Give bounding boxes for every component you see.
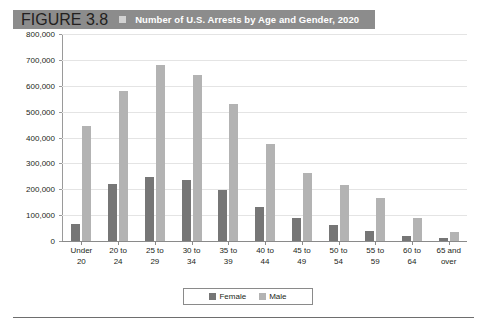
x-axis-category-label: 50 to 54 <box>320 246 357 267</box>
bar-group <box>210 34 247 241</box>
bar-male[interactable] <box>340 185 349 241</box>
bar-male[interactable] <box>119 91 128 241</box>
bar-female[interactable] <box>108 184 117 241</box>
bar-male[interactable] <box>229 104 238 241</box>
y-tick-mark <box>59 86 62 87</box>
bar-group <box>247 34 284 241</box>
bar-male[interactable] <box>156 65 165 241</box>
x-tick-mark <box>81 241 82 245</box>
y-axis-tick-labels: 800,000700,000600,000500,000400,000300,0… <box>8 34 55 249</box>
plot-area <box>62 34 467 242</box>
y-axis-tick-label: 700,000 <box>26 55 55 64</box>
bar-female[interactable] <box>71 224 80 241</box>
bar-male[interactable] <box>413 218 422 241</box>
x-axis-category-label: 55 to 59 <box>357 246 394 267</box>
x-tick-mark <box>118 241 119 245</box>
x-axis-category-labels: Under 2020 to 2425 to 2930 to 3435 to 39… <box>63 246 467 267</box>
y-tick-mark <box>59 241 62 242</box>
bar-male[interactable] <box>266 144 275 241</box>
bar-group <box>430 34 467 241</box>
bar-male[interactable] <box>303 173 312 241</box>
x-axis-category-label: Under 20 <box>63 246 100 267</box>
bar-group <box>100 34 137 241</box>
bar-male[interactable] <box>376 198 385 241</box>
x-axis-category-label: 60 to 64 <box>394 246 431 267</box>
bar-female[interactable] <box>218 190 227 241</box>
figure-header-bar: FIGURE 3.8 Number of U.S. Arrests by Age… <box>13 10 375 29</box>
x-axis-category-label: 40 to 44 <box>247 246 284 267</box>
legend-item-male[interactable]: Male <box>259 292 286 301</box>
bar-group <box>357 34 394 241</box>
x-tick-mark <box>339 241 340 245</box>
y-tick-mark <box>59 112 62 113</box>
x-tick-mark <box>449 241 450 245</box>
legend-label: Female <box>219 292 246 301</box>
y-axis-tick-label: 800,000 <box>26 30 55 39</box>
y-tick-mark <box>59 189 62 190</box>
bar-female[interactable] <box>145 177 154 241</box>
x-tick-mark <box>412 241 413 245</box>
bar-female[interactable] <box>255 207 264 241</box>
legend-label: Male <box>269 292 286 301</box>
bar-group <box>63 34 100 241</box>
y-axis-tick-label: 400,000 <box>26 133 55 142</box>
y-axis-tick-label: 200,000 <box>26 185 55 194</box>
figure-title: Number of U.S. Arrests by Age and Gender… <box>135 14 359 25</box>
x-tick-mark <box>302 241 303 245</box>
bar-group <box>173 34 210 241</box>
y-axis-tick-label: 600,000 <box>26 81 55 90</box>
bar-male[interactable] <box>82 126 91 241</box>
y-tick-mark <box>59 138 62 139</box>
y-axis-tick-label: 100,000 <box>26 211 55 220</box>
legend-swatch-icon <box>209 293 216 300</box>
bar-female[interactable] <box>292 218 301 241</box>
x-axis-category-label: 45 to 49 <box>283 246 320 267</box>
x-axis-category-label: 35 to 39 <box>210 246 247 267</box>
x-axis-category-label: 20 to 24 <box>100 246 137 267</box>
bar-group <box>136 34 173 241</box>
bar-female[interactable] <box>402 236 411 241</box>
y-tick-mark <box>59 215 62 216</box>
y-tick-mark <box>59 34 62 35</box>
bar-group <box>394 34 431 241</box>
y-tick-mark <box>59 163 62 164</box>
x-tick-mark <box>228 241 229 245</box>
figure-number-label: FIGURE 3.8 <box>21 11 108 29</box>
bars-layer <box>63 34 467 241</box>
y-axis-tick-label: 500,000 <box>26 107 55 116</box>
bar-male[interactable] <box>450 232 459 241</box>
x-axis-category-label: 25 to 29 <box>136 246 173 267</box>
bottom-divider <box>13 317 474 318</box>
x-axis-category-label: 65 and over <box>430 246 467 267</box>
bar-group <box>320 34 357 241</box>
legend-swatch-icon <box>259 293 266 300</box>
legend-item-female[interactable]: Female <box>209 292 246 301</box>
bar-female[interactable] <box>439 238 448 241</box>
x-tick-mark <box>265 241 266 245</box>
x-tick-mark <box>192 241 193 245</box>
bar-female[interactable] <box>365 231 374 241</box>
x-tick-mark <box>155 241 156 245</box>
bar-female[interactable] <box>182 180 191 241</box>
square-bullet-icon <box>119 16 126 23</box>
x-tick-mark <box>375 241 376 245</box>
y-axis-tick-label: 0 <box>51 237 55 246</box>
x-axis-category-label: 30 to 34 <box>173 246 210 267</box>
chart-legend: FemaleMale <box>183 288 313 305</box>
y-tick-mark <box>59 60 62 61</box>
bar-male[interactable] <box>193 75 202 241</box>
bar-female[interactable] <box>329 225 338 241</box>
bar-group <box>283 34 320 241</box>
chart-region: 800,000700,000600,000500,000400,000300,0… <box>0 34 487 294</box>
y-axis-tick-label: 300,000 <box>26 159 55 168</box>
